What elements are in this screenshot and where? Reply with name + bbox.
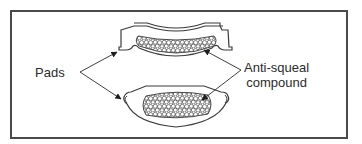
upper-pad xyxy=(119,23,232,56)
anti-squeal-compound-label: Anti-squeal compound xyxy=(244,60,309,90)
pads-callout-arrows xyxy=(80,52,121,99)
anti-squeal-label-line1: Anti-squeal xyxy=(244,60,309,75)
pads-label: Pads xyxy=(35,65,65,80)
lower-pad-compound xyxy=(143,92,211,118)
anti-squeal-label-line2: compound xyxy=(244,75,309,90)
